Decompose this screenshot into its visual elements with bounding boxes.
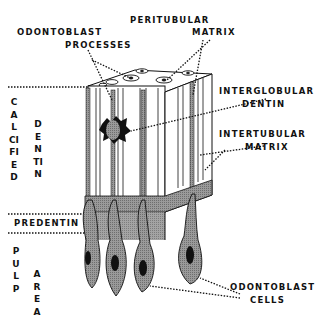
peritubular-label-2: MATRIX	[192, 27, 236, 37]
interglobular-label-1: INTERGLOBULAR	[219, 86, 314, 96]
odontoblast-processes-label-1: ODONTOBLAST	[17, 27, 102, 37]
odontoblast-cells-label-2: CELLS	[250, 295, 285, 305]
dentin-block-illustration	[0, 0, 325, 326]
intertubular-label-2: MATRIX	[245, 142, 289, 152]
calcified-vertical-label: CALCIFIED	[8, 96, 20, 184]
peritubular-label-1: PERITUBULAR	[130, 15, 210, 25]
odontoblast-processes-label-2: PROCESSES	[65, 40, 132, 50]
intertubular-label-1: INTERTUBULAR	[219, 129, 306, 139]
interglobular-label-2: DENTIN	[242, 99, 285, 109]
dentin-vertical-label: DENTIN	[32, 118, 44, 181]
area-vertical-label: AREA	[31, 268, 43, 318]
pulp-vertical-label: PULP	[10, 245, 22, 295]
predentin-label: PREDENTIN	[14, 218, 79, 228]
odontoblast-cells-label-1: ODONTOBLAST	[230, 282, 315, 292]
